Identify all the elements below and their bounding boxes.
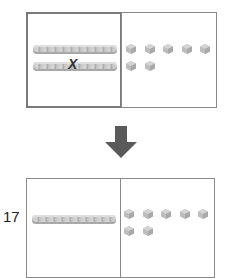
unit-cube	[124, 226, 134, 236]
bottom-tens-column	[26, 178, 121, 278]
unit-cube	[180, 209, 190, 219]
tens-rod	[32, 215, 116, 224]
unit-cube	[126, 44, 136, 54]
unit-cube	[145, 44, 155, 54]
number-label: 17	[3, 208, 20, 225]
unit-cube	[182, 44, 192, 54]
unit-cube	[145, 61, 155, 71]
tens-rod	[33, 45, 117, 54]
unit-cube	[126, 61, 136, 71]
unit-cube	[143, 209, 153, 219]
unit-cube	[161, 209, 171, 219]
top-ones-column	[121, 12, 217, 108]
cross-mark: X	[68, 56, 77, 72]
unit-cube	[200, 44, 210, 54]
unit-cube	[143, 226, 153, 236]
unit-cube	[124, 209, 134, 219]
bottom-ones-column	[120, 178, 215, 278]
unit-cube	[163, 44, 173, 54]
down-arrow-icon	[103, 126, 139, 158]
unit-cube	[198, 209, 208, 219]
